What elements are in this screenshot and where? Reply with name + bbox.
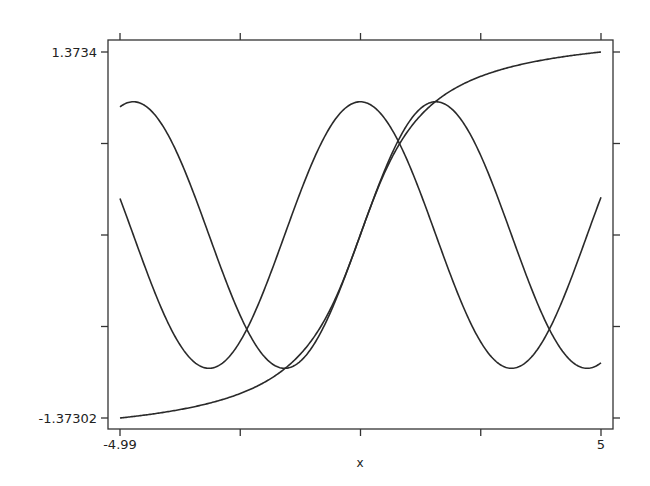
plot-curves bbox=[120, 52, 601, 418]
x-min-label: -4.99 bbox=[103, 437, 137, 452]
chart: 1.3734 -1.37302 -4.99 5 x bbox=[0, 0, 650, 486]
y-max-label: 1.3734 bbox=[52, 45, 98, 60]
y-min-label: -1.37302 bbox=[39, 411, 97, 426]
x-axis-title: x bbox=[356, 456, 363, 470]
x-max-label: 5 bbox=[597, 437, 605, 452]
curve-atan bbox=[120, 52, 601, 418]
